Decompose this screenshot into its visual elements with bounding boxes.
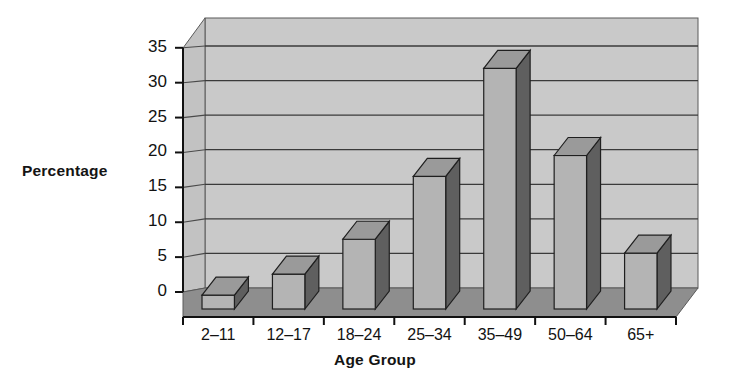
y-tick-label: 15 (127, 176, 167, 196)
x-axis-ticks (183, 317, 676, 325)
bar-front-face (413, 176, 445, 309)
bar-side-face (587, 138, 601, 309)
x-axis-title: Age Group (0, 351, 750, 369)
bar-side-face (516, 50, 530, 309)
y-tick-label: 0 (127, 281, 167, 301)
y-axis-ticks (175, 48, 183, 292)
bar-side-face (446, 158, 460, 309)
y-tick-label: 30 (127, 72, 167, 92)
bar-front-face (343, 239, 375, 309)
bar-front-face (554, 156, 586, 309)
bar (484, 50, 530, 309)
y-tick-label: 5 (127, 246, 167, 266)
y-axis-title: Percentage (22, 162, 108, 180)
bar-front-face (625, 253, 657, 309)
bar (413, 158, 459, 309)
bar-chart: 05101520253035 2–1112–1718–2425–3435–495… (0, 0, 750, 392)
bar-front-face (202, 295, 234, 309)
y-tick-label: 20 (127, 141, 167, 161)
bar (343, 221, 389, 309)
plot-side-wall (183, 18, 205, 292)
bar (625, 235, 671, 309)
y-tick-label: 35 (127, 37, 167, 57)
bar-front-face (272, 274, 304, 309)
y-tick-label: 10 (127, 211, 167, 231)
y-tick-label: 25 (127, 107, 167, 127)
bar-front-face (484, 68, 516, 309)
x-tick-label: 65+ (596, 326, 686, 344)
bar (554, 138, 600, 309)
